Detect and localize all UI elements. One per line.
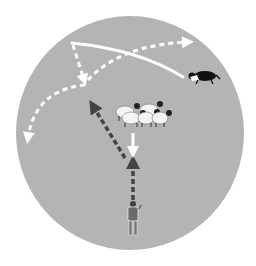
herding-diagram — [0, 0, 256, 266]
diagram-canvas — [0, 0, 256, 266]
